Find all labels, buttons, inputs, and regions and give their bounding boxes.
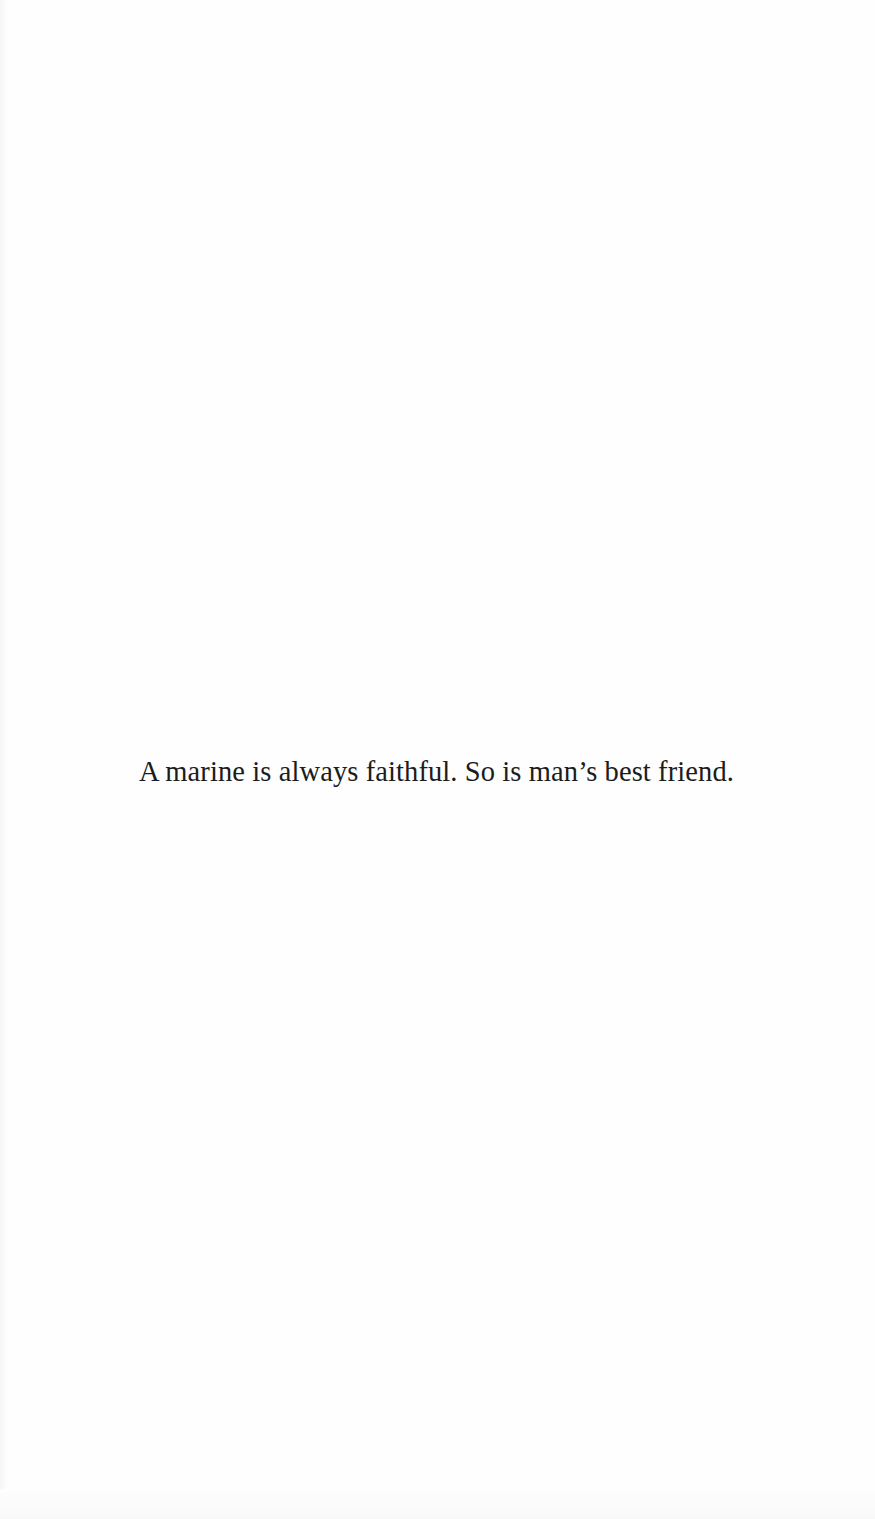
epigraph: A marine is always faithful. So is man’s…: [0, 752, 875, 792]
epigraph-text: A marine is always faithful. So is man’s…: [139, 752, 734, 792]
book-page: A marine is always faithful. So is man’s…: [0, 0, 875, 1519]
scan-edge-shadow-bottom: [0, 1489, 875, 1519]
